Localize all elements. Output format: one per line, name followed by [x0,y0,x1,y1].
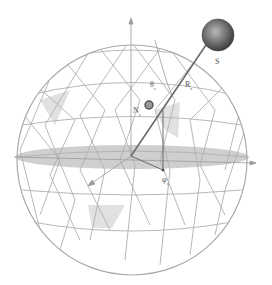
normal-label: Ns [133,107,141,117]
theta-label: θs [150,81,156,91]
normal-point [145,101,153,109]
phi-label: φs [162,176,169,186]
source-vector [131,42,208,156]
phi-vertex-dot [162,169,165,172]
geodesic-sphere-diagram [0,0,272,285]
range-label: Rs [185,81,192,91]
source-label: S [215,58,219,66]
source-sphere [202,19,234,51]
